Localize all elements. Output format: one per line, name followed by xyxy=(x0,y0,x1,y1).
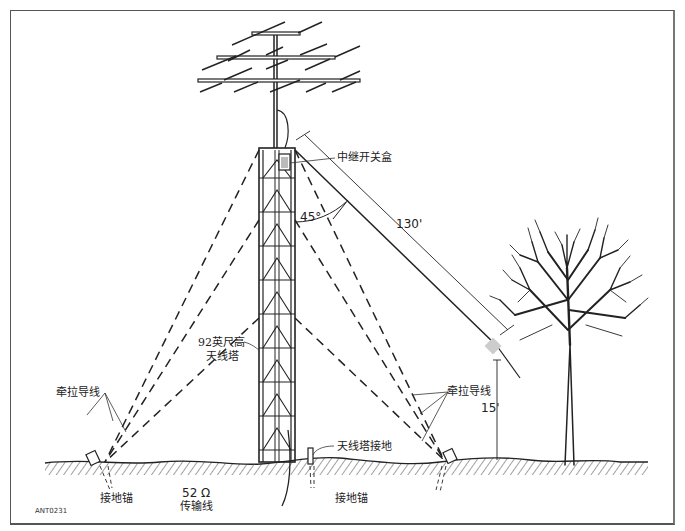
yagi-antenna xyxy=(198,22,360,148)
angle-label: 45° xyxy=(300,211,321,224)
tower-height-label-line1: 92英尺高 xyxy=(198,336,245,349)
figure-id: ANT0231 xyxy=(35,505,67,518)
tower-height-label-line2: 天线塔 xyxy=(206,350,239,363)
anchor-label-right: 接地锚 xyxy=(335,492,368,505)
impedance-label: 52 Ω xyxy=(182,487,210,500)
guy-wire-label-right: 牵拉导线 xyxy=(447,385,491,398)
ground xyxy=(45,458,648,475)
feedline-label: 传输线 xyxy=(180,500,213,513)
relay-box-label: 中继开关盒 xyxy=(337,151,392,164)
lattice-tower xyxy=(259,148,295,506)
anchor-label-left: 接地锚 xyxy=(100,492,133,505)
tower-ground-label: 天线塔接地 xyxy=(337,440,392,453)
tree xyxy=(490,218,648,465)
length-label: 130' xyxy=(396,218,422,231)
guy-wire-label-left: 牵拉导线 xyxy=(56,386,100,399)
height-label: 15' xyxy=(481,402,500,415)
